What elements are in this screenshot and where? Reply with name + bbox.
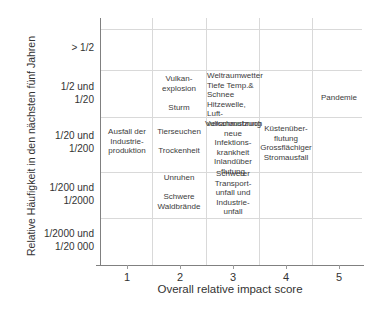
x-tick-label-5: 5 bbox=[319, 271, 359, 283]
cell-row3-col2: Tierseuchen Trockenheit bbox=[152, 127, 206, 156]
x-axis-title: Overall relative impact score bbox=[96, 283, 364, 295]
x-tick-label-2: 2 bbox=[160, 271, 200, 283]
y-tick-label-half-to-twentieth: 1/2 und 1/20 bbox=[0, 81, 94, 106]
cell-row3-col4: Küstenüber- flutung Grossflächiger Strom… bbox=[259, 124, 313, 162]
y-tick-label-twothousandth-to-twentythousandth: 1/2000 und 1/20 000 bbox=[0, 228, 94, 253]
x-tick-label-3: 3 bbox=[213, 271, 253, 283]
y-tick-label-twentieth-to-twohundredth: 1/20 und 1/200 bbox=[0, 130, 94, 155]
x-tick-mark-4 bbox=[286, 265, 287, 269]
cell-row4-col3: Schwerer Transport- unfall und Industrie… bbox=[205, 169, 261, 217]
y-tick-label-twohundredth-to-twothousandth: 1/200 und 1/2000 bbox=[0, 182, 94, 207]
x-tick-label-1: 1 bbox=[107, 271, 147, 283]
risk-matrix-chart: Relative Häufigkeit in den nächsten fünf… bbox=[0, 0, 368, 314]
x-tick-mark-1 bbox=[127, 265, 128, 269]
x-tick-label-4: 4 bbox=[266, 271, 306, 283]
cell-row3-col1: Ausfall der Industrie- produktion bbox=[101, 127, 153, 156]
x-tick-mark-3 bbox=[233, 265, 234, 269]
cell-row4-col2: Unruhen Schwere Waldbrände bbox=[152, 173, 206, 211]
origin-tick bbox=[96, 265, 105, 266]
x-tick-mark-2 bbox=[180, 265, 181, 269]
gridline-horizontal-5 bbox=[100, 218, 362, 219]
x-axis-line bbox=[96, 265, 364, 266]
x-tick-mark-5 bbox=[339, 265, 340, 269]
gridline-horizontal-1 bbox=[100, 29, 362, 30]
cell-row2-col5: Pandemie bbox=[313, 93, 365, 103]
cell-row3-col3: Vulkanausbruch neue Infektions- krankhei… bbox=[205, 119, 261, 177]
cell-row2-col2: Vulkan- explosion Sturm bbox=[152, 74, 206, 112]
y-tick-label-gt-half: > 1/2 bbox=[0, 42, 94, 55]
